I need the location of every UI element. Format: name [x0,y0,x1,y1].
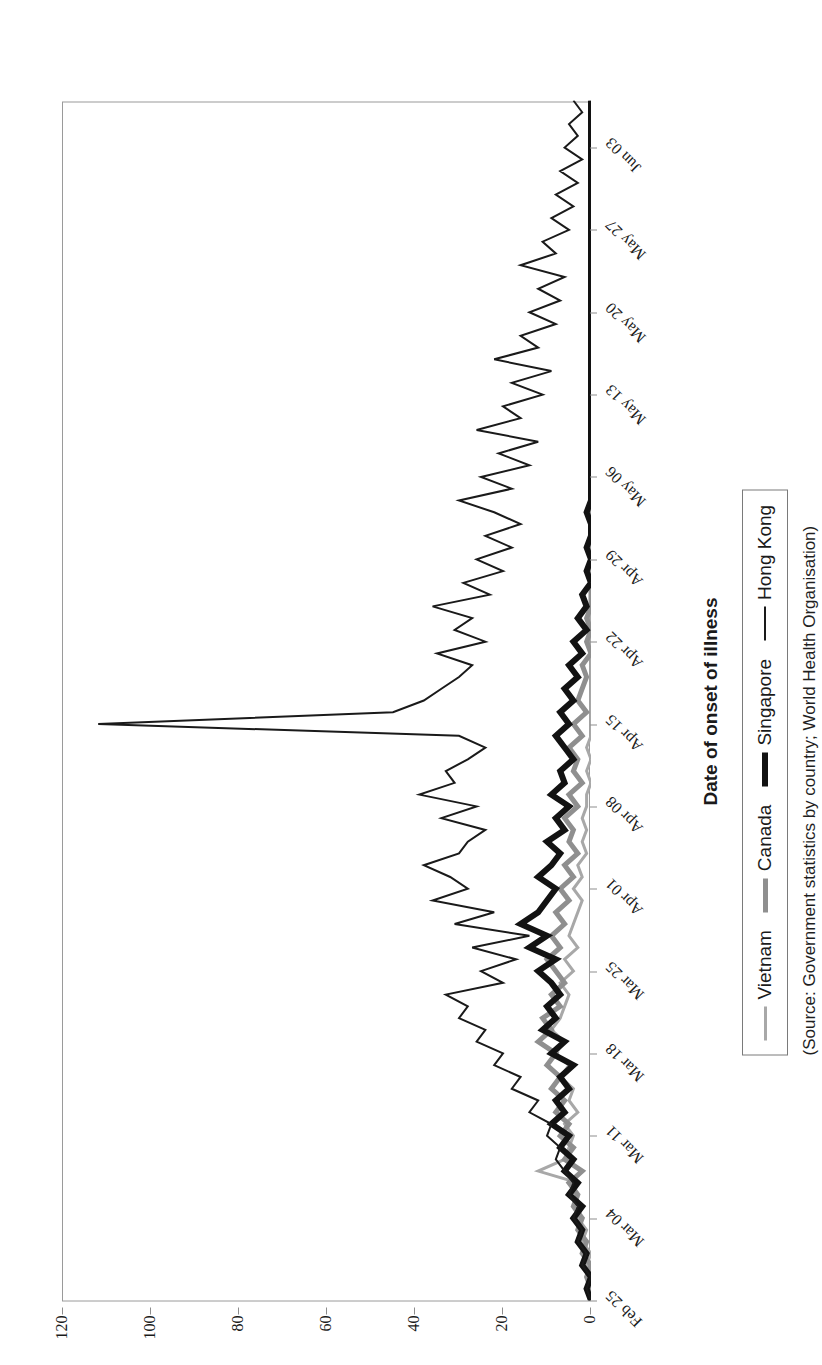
x-tick-mark [590,1218,597,1219]
x-tick-mark [590,1053,597,1054]
legend-line-swatch [762,752,768,786]
legend-label: Canada [754,804,776,871]
x-tick-mark [590,312,597,313]
x-tick-label: Apr 08 [602,792,664,854]
y-tick-label: 60 [317,1315,335,1331]
x-tick-mark [590,476,597,477]
x-tick-label: Mar 25 [602,957,664,1019]
x-tick-label: Jun 03 [602,133,664,195]
y-tick-label: 20 [493,1315,511,1331]
x-tick-label: Mar 11 [602,1122,664,1184]
x-tick-label: May 27 [602,216,664,278]
legend-line-swatch [763,878,768,912]
x-tick-mark [590,971,597,972]
x-tick-mark [590,147,597,148]
y-tick-label: 0 [581,1315,599,1323]
y-tick-label: 80 [229,1315,247,1331]
x-tick-label: Feb 25 [602,1286,664,1348]
x-tick-label: Apr 22 [602,627,664,689]
y-tick-label: 120 [53,1315,71,1339]
y-tick-mark [414,1307,415,1314]
series-canvas [63,100,591,1300]
y-tick-mark [150,1307,151,1314]
x-tick-mark [590,724,597,725]
legend-item-vietnam: Vietnam [754,930,776,1040]
x-tick-mark [590,1300,597,1301]
source-note: (Source: Government statistics by countr… [800,525,820,1055]
y-tick-mark [590,1307,591,1314]
x-tick-label: May 13 [602,380,664,442]
x-tick-mark [590,641,597,642]
x-tick-label: May 06 [602,463,664,525]
x-tick-label: Apr 29 [602,545,664,607]
y-axis-ticklabels: 020406080100120 [62,1307,590,1365]
x-tick-mark [590,229,597,230]
x-tick-label: Apr 01 [602,875,664,937]
x-tick-label: May 20 [602,298,664,360]
legend-item-hong-kong: Hong Kong [754,504,776,640]
legend-item-canada: Canada [754,804,776,912]
rotated-figure-wrapper: Number of cases 020406080100120 Feb 25Ma… [0,0,822,1365]
y-tick-mark [238,1307,239,1314]
legend-line-swatch [764,606,766,640]
x-axis-ticklabels: Feb 25Mar 04Mar 11Mar 18Mar 25Apr 01Apr … [590,101,710,1301]
x-tick-mark [590,888,597,889]
y-tick-mark [62,1307,63,1314]
y-tick-label: 40 [405,1315,423,1331]
legend-label: Hong Kong [754,504,776,599]
legend-line-swatch [764,1006,767,1040]
legend: VietnamCanadaSingaporeHong Kong [742,489,788,1055]
legend-label: Vietnam [754,930,776,999]
x-tick-mark [590,1135,597,1136]
series-line-hong-kong [98,100,591,1300]
y-tick-mark [326,1307,327,1314]
x-tick-mark [590,806,597,807]
y-tick-label: 100 [141,1315,159,1339]
plot-area [62,101,590,1301]
legend-label: Singapore [754,658,776,745]
x-axis-title: Date of onset of illness [700,101,722,1301]
figure: Number of cases 020406080100120 Feb 25Ma… [0,0,822,1365]
x-tick-label: Mar 04 [602,1204,664,1266]
x-tick-label: Apr 15 [602,710,664,772]
y-tick-mark [502,1307,503,1314]
series-line-canada [538,100,591,1300]
x-tick-mark [590,559,597,560]
x-tick-label: Mar 18 [602,1039,664,1101]
legend-item-singapore: Singapore [754,658,776,786]
x-tick-mark [590,394,597,395]
